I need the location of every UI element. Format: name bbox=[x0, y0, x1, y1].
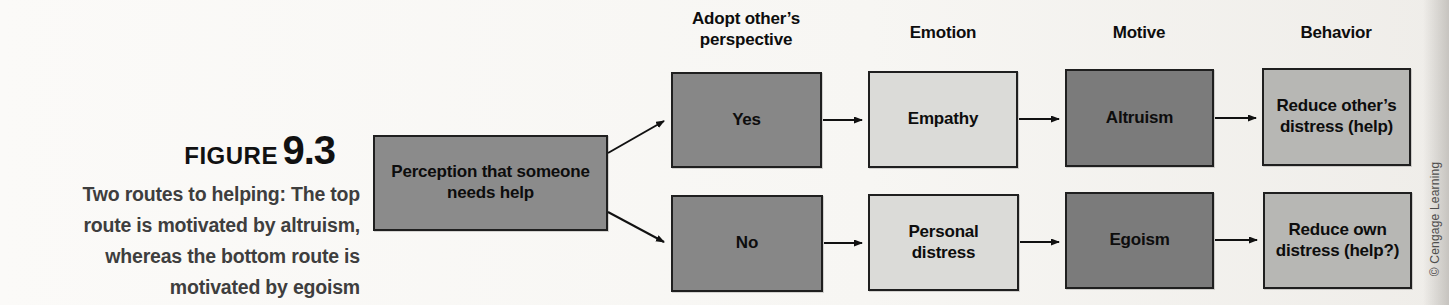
node-yes-label: Yes bbox=[726, 110, 767, 131]
node-reduce-others-distress: Reduce other’s distress (help) bbox=[1262, 68, 1411, 166]
node-empathy-label: Empathy bbox=[902, 109, 984, 130]
figure-number: 9.3 bbox=[282, 128, 335, 172]
page-edge-shading bbox=[1423, 0, 1449, 305]
node-no: No bbox=[671, 195, 823, 292]
node-reduce-own-distress: Reduce own distress (help?) bbox=[1263, 192, 1412, 289]
node-egoism: Egoism bbox=[1065, 192, 1214, 289]
node-altruism-label: Altruism bbox=[1100, 108, 1179, 129]
column-header-perspective: Adopt other’s perspective bbox=[676, 8, 816, 50]
figure-label: FIGURE bbox=[184, 142, 278, 169]
column-header-behavior: Behavior bbox=[1261, 22, 1411, 43]
node-empathy: Empathy bbox=[868, 71, 1018, 168]
caption-line-2: route is motivated by altruism, bbox=[8, 210, 360, 241]
arrow-perception-to-no bbox=[608, 212, 664, 242]
node-reduce-others-distress-label: Reduce other’s distress (help) bbox=[1264, 96, 1409, 137]
node-reduce-own-distress-label: Reduce own distress (help?) bbox=[1265, 220, 1410, 261]
figure-caption: FIGURE 9.3 Two routes to helping: The to… bbox=[8, 130, 360, 303]
caption-line-3: whereas the bottom route is bbox=[8, 241, 360, 272]
node-altruism: Altruism bbox=[1065, 69, 1214, 167]
node-perception-label: Perception that someone needs help bbox=[378, 162, 604, 203]
node-yes: Yes bbox=[671, 72, 822, 168]
figure-title: FIGURE 9.3 bbox=[8, 130, 360, 179]
node-personal-distress-label: Personal distress bbox=[892, 222, 996, 263]
node-egoism-label: Egoism bbox=[1103, 230, 1175, 251]
caption-line-4: motivated by egoism bbox=[8, 272, 360, 303]
arrow-perception-to-yes bbox=[608, 121, 664, 153]
column-header-emotion: Emotion bbox=[868, 22, 1018, 43]
node-perception: Perception that someone needs help bbox=[373, 135, 608, 231]
node-no-label: No bbox=[730, 233, 764, 254]
figure-page: FIGURE 9.3 Two routes to helping: The to… bbox=[0, 0, 1449, 305]
column-header-motive: Motive bbox=[1064, 22, 1214, 43]
caption-line-1: Two routes to helping: The top bbox=[8, 179, 360, 210]
node-personal-distress: Personal distress bbox=[868, 194, 1019, 291]
